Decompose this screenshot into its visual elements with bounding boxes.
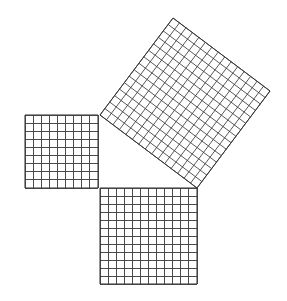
- pythagorean-diagram: [0, 0, 287, 301]
- square-leg-b-grid: [100, 188, 197, 284]
- square-leg-a-outline: [25, 115, 98, 188]
- square-leg-a-grid: [25, 115, 98, 188]
